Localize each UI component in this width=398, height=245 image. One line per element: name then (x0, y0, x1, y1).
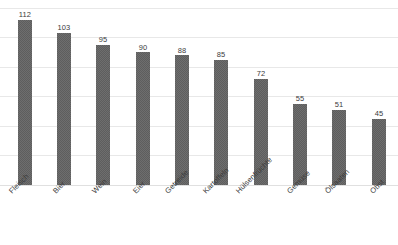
bar-kartoffeln[interactable] (214, 60, 228, 185)
value-label-huelsenfruechte: 72 (244, 69, 278, 78)
value-label-gemuese: 55 (283, 94, 317, 103)
value-label-kartoffeln: 85 (204, 50, 238, 59)
value-label-fleisch: 112 (8, 10, 42, 19)
bar-bier[interactable] (57, 33, 71, 185)
bar-getreide[interactable] (175, 55, 189, 185)
bar-wein[interactable] (96, 45, 110, 185)
plot-area (0, 8, 398, 185)
value-label-wein: 95 (86, 35, 120, 44)
bar-fleisch[interactable] (18, 20, 32, 185)
value-label-bier: 103 (47, 23, 81, 32)
value-label-eier: 90 (126, 43, 160, 52)
value-label-oelsaaten: 51 (322, 100, 356, 109)
value-label-obst: 45 (362, 109, 396, 118)
bar-eier[interactable] (136, 52, 150, 185)
bar-chart: 112 103 95 90 88 85 72 55 51 45 Fleisch … (0, 0, 398, 245)
value-label-getreide: 88 (165, 46, 199, 55)
bar-obst[interactable] (372, 119, 386, 185)
